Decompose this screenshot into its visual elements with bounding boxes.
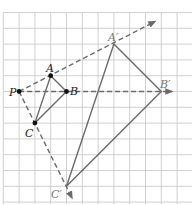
label-b-prime: B′	[159, 78, 171, 91]
grid	[3, 13, 192, 205]
label-a: A	[45, 62, 54, 75]
label-c-prime: C′	[51, 188, 62, 201]
dilation-diagram: P A B C A′ B′ C′	[0, 0, 192, 204]
point-p	[17, 89, 22, 94]
point-b	[64, 89, 69, 94]
point-c	[33, 121, 38, 126]
label-p: P	[8, 86, 17, 99]
label-a-prime: A′	[107, 31, 119, 44]
ray-p-a	[19, 22, 155, 92]
label-c: C	[25, 127, 34, 140]
label-b: B	[69, 85, 78, 98]
